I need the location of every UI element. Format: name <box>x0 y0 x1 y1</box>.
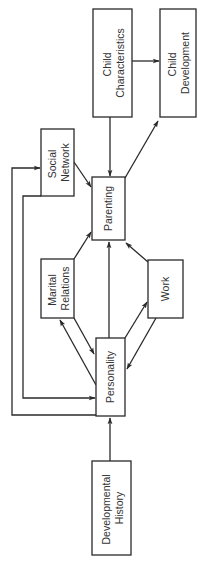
edge-personality-to-marital <box>60 320 96 385</box>
edge-work-to-parenting <box>126 243 148 262</box>
edge-social-to-parenting <box>74 162 91 187</box>
child-development-line2: Development <box>179 32 191 94</box>
personality-line1: Personality <box>104 350 116 403</box>
node-work: Work <box>148 260 183 318</box>
node-marital-relations: Marital Relations <box>41 259 74 318</box>
svg-text:Personality: Personality <box>104 350 116 403</box>
edge-personality-to-work <box>125 302 147 338</box>
parenting-line1: Parenting <box>102 186 114 231</box>
svg-text:Marital Relations: Marital Relations <box>46 267 71 311</box>
edges <box>12 61 159 461</box>
social-network-line1: Social <box>46 150 58 179</box>
developmental-history-line1: Developmental <box>100 474 112 544</box>
edge-marital-to-parenting <box>74 232 91 259</box>
developmental-history-line2: History <box>113 491 125 524</box>
svg-text:Work: Work <box>159 276 171 301</box>
edge-parenting-to-childdev <box>125 121 158 178</box>
child-characteristics-line2: Characteristics <box>114 28 126 97</box>
edge-marital-to-personality <box>74 318 94 354</box>
node-child-development: Child Development <box>160 9 196 117</box>
work-line1: Work <box>159 276 171 301</box>
marital-relations-line2: Relations <box>59 267 71 311</box>
marital-relations-line1: Marital <box>46 274 58 306</box>
node-social-network: Social Network <box>41 129 74 196</box>
child-development-line1: Child <box>166 52 178 76</box>
node-personality: Personality <box>96 338 125 416</box>
child-characteristics-line1: Child <box>101 52 113 76</box>
svg-text:Parenting: Parenting <box>102 186 114 231</box>
parenting-process-diagram: Child Characteristics Child Development … <box>0 0 204 563</box>
edge-work-to-personality <box>127 318 156 369</box>
svg-text:Social Network: Social Network <box>46 142 71 181</box>
node-child-characteristics: Child Characteristics <box>93 9 132 117</box>
social-network-line2: Network <box>59 142 71 181</box>
node-parenting: Parenting <box>92 177 125 240</box>
node-developmental-history: Developmental History <box>92 461 131 555</box>
